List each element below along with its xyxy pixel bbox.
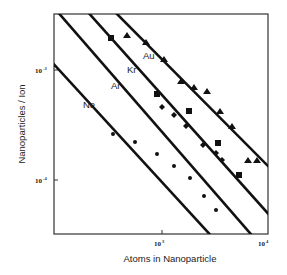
series-label-kr: Kr — [127, 64, 137, 75]
series-label-ar: Ar — [111, 80, 121, 91]
chart-svg: 10-3 10-4 103 104 Atoms in Nanoparticle … — [0, 0, 287, 275]
y-axis-label: Nanoparticles / Ion — [16, 84, 27, 163]
y-tick-label-1e-4: 10-4 — [35, 176, 47, 185]
y-tick-label-1e-3: 10-3 — [35, 66, 47, 75]
series-label-au: Au — [143, 50, 155, 61]
x-tick-label-1e3: 103 — [154, 239, 165, 248]
series-label-ne: Ne — [83, 99, 95, 110]
plot-area — [54, 14, 268, 234]
x-axis-label: Atoms in Nanoparticle — [124, 253, 217, 264]
x-tick-label-1e4: 104 — [258, 239, 269, 248]
